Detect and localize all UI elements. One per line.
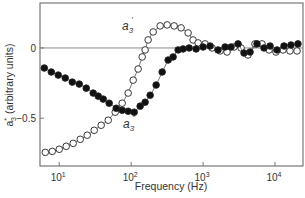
data-point (119, 107, 126, 114)
data-point (55, 72, 62, 79)
data-point (215, 47, 222, 54)
data-point (150, 29, 157, 36)
data-point (281, 43, 288, 50)
data-point (153, 82, 160, 89)
data-point (157, 23, 164, 30)
data-point (164, 22, 171, 29)
data-point (145, 37, 152, 44)
data-point (63, 143, 70, 150)
data-point (62, 75, 69, 82)
data-point (98, 122, 105, 129)
x-tick-label: 101 (51, 171, 66, 183)
data-point (241, 50, 248, 57)
series-label-a3-prime: a3′ (122, 15, 134, 35)
y-tick-label: −0.5 (16, 113, 36, 124)
data-point (139, 54, 146, 61)
data-point (130, 77, 137, 84)
data-point (294, 48, 301, 55)
data-point (207, 43, 214, 50)
data-point (83, 85, 90, 92)
data-point (84, 132, 91, 139)
data-point (77, 136, 84, 143)
data-point (147, 92, 154, 99)
data-point (142, 47, 149, 54)
data-point (295, 41, 302, 48)
data-point (56, 146, 63, 153)
data-point (267, 43, 274, 50)
svg-text:a*3 (arbitrary units): a*3 (arbitrary units) (3, 44, 17, 127)
data-point (186, 45, 193, 52)
data-point (69, 79, 76, 86)
data-point (135, 66, 142, 73)
data-point (91, 127, 98, 134)
data-point (105, 117, 112, 124)
x-tick-label: 104 (266, 171, 281, 183)
data-point (170, 54, 177, 61)
y-axis-title-sup: * (3, 118, 10, 121)
data-point (200, 44, 207, 51)
data-point (125, 90, 132, 97)
series-label-a3-double-prime: a3″ (123, 113, 136, 133)
data-point (125, 108, 132, 115)
chart: 101102103104 0−0.5 Frequency (Hz) a*3 (a… (0, 0, 305, 198)
data-point (49, 148, 56, 155)
data-point (235, 41, 242, 48)
x-axis-title: Frequency (Hz) (135, 180, 207, 192)
data-point (180, 46, 187, 53)
data-point (185, 30, 192, 37)
y-tick-label: 0 (30, 43, 36, 54)
data-point (193, 46, 200, 53)
data-point (76, 81, 83, 88)
series-a3-double-prime (41, 41, 301, 116)
data-point (171, 23, 178, 30)
y-axis-title: a*3 (arbitrary units) (3, 44, 17, 127)
data-point (100, 96, 107, 103)
data-point (274, 47, 281, 54)
data-point (106, 100, 113, 107)
data-point (247, 49, 254, 56)
data-point (288, 42, 295, 49)
data-point (119, 100, 126, 107)
data-point (42, 149, 49, 156)
data-point (142, 99, 149, 106)
data-point (159, 69, 166, 76)
y-axis-title-rest: (arbitrary units) (3, 44, 15, 118)
series-layer (41, 22, 301, 156)
series-a3-prime (42, 22, 300, 156)
data-point (228, 44, 235, 51)
data-point (254, 41, 261, 48)
data-point (48, 69, 55, 76)
data-point (70, 140, 77, 147)
data-point (41, 65, 48, 72)
data-point (178, 25, 185, 32)
